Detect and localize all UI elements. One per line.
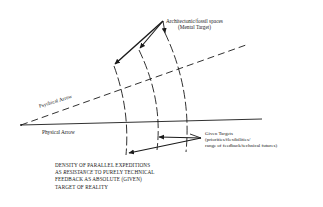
mental-target-arrow-1 bbox=[115, 21, 163, 64]
caption-line2-prefix: AS bbox=[55, 169, 63, 175]
caption-emphasis: RESISTANCE bbox=[63, 169, 93, 175]
caption-line4: TARGET OF REALITY bbox=[55, 184, 155, 191]
diagram-caption: DENSITY OF PARALLEL EXPEDITIONS AS RESIS… bbox=[55, 162, 155, 191]
given-targets-label: Given Targets (priorities/flexibilities/… bbox=[205, 131, 277, 150]
caption-line2-suffix: TO PURELY TECHNICAL bbox=[93, 169, 154, 175]
given-target-arrow-2 bbox=[159, 137, 201, 138]
mental-target-arrow-2 bbox=[140, 21, 163, 48]
caption-line2: AS RESISTANCE TO PURELY TECHNICAL bbox=[55, 169, 155, 176]
mental-target-label: Architectonic/fossil spaces (Mental Targ… bbox=[166, 18, 223, 31]
psychical-arrow-line bbox=[21, 45, 246, 125]
expedition-arc-3 bbox=[165, 33, 187, 152]
expedition-arc-1 bbox=[114, 66, 127, 155]
caption-line3: FEEDBACK AS ABSOLUTE (GIVEN) bbox=[55, 176, 155, 183]
physical-arrow-line bbox=[21, 119, 262, 125]
caption-line1: DENSITY OF PARALLEL EXPEDITIONS bbox=[55, 162, 155, 169]
physical-arrow-label: Physical Arrow bbox=[42, 129, 75, 135]
given-targets-line3: range of feedback/technical futures) bbox=[205, 143, 277, 149]
given-target-arrow-1 bbox=[129, 138, 201, 153]
mental-target-line2: (Mental Target) bbox=[166, 24, 223, 30]
expedition-arc-2 bbox=[139, 50, 158, 150]
mental-target-arrow-3 bbox=[163, 21, 165, 33]
